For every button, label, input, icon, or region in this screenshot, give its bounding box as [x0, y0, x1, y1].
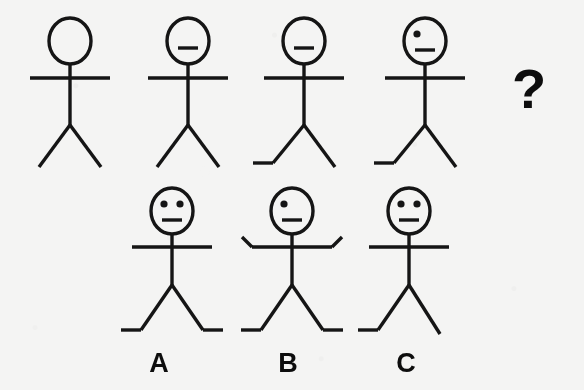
head-1: [49, 18, 91, 64]
option-b-label: B: [278, 348, 298, 378]
left-eye-c: [397, 200, 404, 207]
sequence-figure-1: [30, 18, 110, 167]
left-eye-4: [413, 30, 420, 37]
left-leg-2: [157, 125, 188, 167]
left-eye-a: [160, 200, 167, 207]
option-a[interactable]: A: [121, 188, 223, 378]
head-a: [151, 188, 193, 234]
right-leg-3: [304, 125, 335, 167]
left-hand-b: [242, 237, 252, 247]
right-hand-b: [332, 237, 342, 247]
left-leg-3: [273, 125, 304, 163]
right-leg-b: [292, 285, 323, 330]
left-leg-c: [378, 285, 409, 330]
puzzle-canvas: ? A: [0, 0, 584, 390]
right-leg-a: [172, 285, 203, 330]
head-c: [388, 188, 430, 234]
head-3: [283, 18, 325, 64]
head-2: [167, 18, 209, 64]
left-leg-1: [39, 125, 70, 167]
options-row: A B C: [121, 188, 449, 378]
right-leg-4: [425, 125, 456, 167]
right-eye-a: [176, 200, 183, 207]
sequence-row: ?: [30, 18, 546, 167]
head-4: [404, 18, 446, 64]
right-eye-c: [413, 200, 420, 207]
option-b[interactable]: B: [241, 188, 343, 378]
left-leg-b: [261, 285, 292, 330]
right-leg-c: [409, 285, 440, 334]
head-b: [271, 188, 313, 234]
left-leg-4: [394, 125, 425, 163]
sequence-figure-2: [148, 18, 228, 167]
left-leg-a: [141, 285, 172, 330]
option-c-label: C: [396, 348, 416, 378]
option-c[interactable]: C: [358, 188, 449, 378]
right-leg-1: [70, 125, 101, 167]
sequence-figure-3: [253, 18, 344, 167]
question-mark: ?: [512, 57, 546, 120]
left-eye-b: [280, 200, 287, 207]
right-leg-2: [188, 125, 219, 167]
option-a-label: A: [149, 348, 169, 378]
sequence-figure-4: [374, 18, 465, 167]
